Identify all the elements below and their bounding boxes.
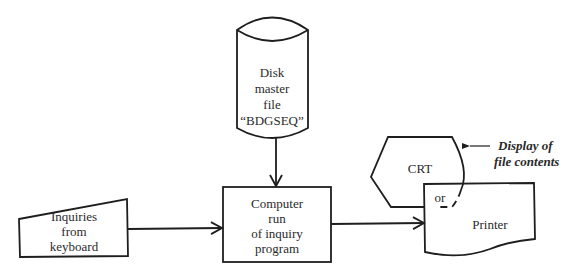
keyboard-label-2: from xyxy=(61,224,86,239)
crt-label: CRT xyxy=(408,161,433,176)
disk-label-1: Disk xyxy=(260,65,285,80)
computer-label-4: program xyxy=(255,241,299,256)
keyboard-input-node: Inquiries from keyboard xyxy=(19,199,128,257)
disk-master-file-node: Disk master file “BDGSEQ” xyxy=(237,18,308,139)
annotation-line-1: Display of xyxy=(497,138,554,153)
disk-label-3: file xyxy=(263,97,281,112)
computer-label-1: Computer xyxy=(251,196,304,211)
computer-label-2: run xyxy=(268,211,286,226)
keyboard-label-1: Inquiries xyxy=(51,209,97,224)
computer-label-3: of inquiry xyxy=(251,226,303,241)
flowchart-canvas: Disk master file “BDGSEQ” Inquiries from… xyxy=(0,0,570,278)
edge-computer-to-printer xyxy=(331,223,424,224)
annotation-line-2: file contents xyxy=(494,154,559,169)
edge-keyboard-to-computer xyxy=(128,228,222,229)
display-annotation: Display of file contents xyxy=(470,138,559,169)
computer-run-node: Computer run of inquiry program xyxy=(223,187,331,262)
or-label: or xyxy=(435,190,447,205)
disk-label-4: “BDGSEQ” xyxy=(240,113,304,128)
crt-display-node: CRT xyxy=(371,137,464,207)
disk-label-2: master xyxy=(255,81,290,96)
printer-label: Printer xyxy=(472,217,508,232)
keyboard-label-3: keyboard xyxy=(50,239,99,254)
